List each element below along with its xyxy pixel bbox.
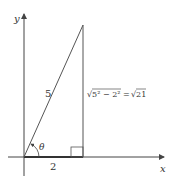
vertical-side-label-left: √5² − 2² xyxy=(87,90,120,99)
vertical-side-label-right: √21 xyxy=(131,90,146,99)
base-label: 2 xyxy=(50,161,56,172)
hypotenuse-label: 5 xyxy=(45,88,51,99)
angle-arc-icon xyxy=(31,144,39,157)
right-angle-marker xyxy=(71,147,83,157)
triangle-hypotenuse xyxy=(24,25,83,157)
diagram-canvas: y x 5 2 θ √5² − 2² = √21 xyxy=(0,0,176,184)
vertical-side-label-eq: = xyxy=(123,90,130,99)
angle-label: θ xyxy=(39,142,45,152)
x-axis-label: x xyxy=(160,163,166,174)
y-axis-label: y xyxy=(13,13,20,24)
triangle-diagram: y x 5 2 θ √5² − 2² = √21 xyxy=(0,0,176,184)
